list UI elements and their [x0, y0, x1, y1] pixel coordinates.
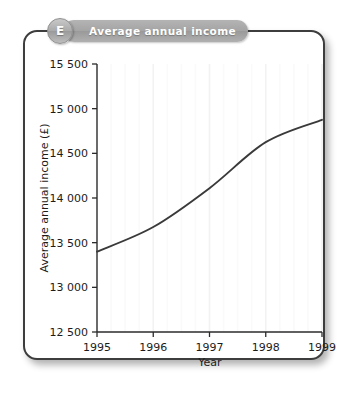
panel-title-pill: Average annual income: [63, 20, 248, 42]
panel-letter-marker: E: [47, 18, 73, 44]
panel-frame: [23, 30, 325, 360]
chart-panel: Average annual income E 12 50013 00013 5…: [0, 0, 358, 395]
